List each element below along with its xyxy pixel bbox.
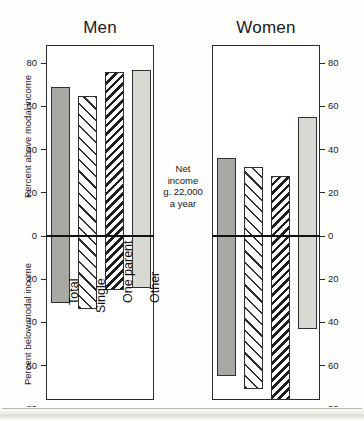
category-label-other: Other bbox=[148, 272, 162, 303]
y-tick-left-3 bbox=[41, 279, 46, 280]
bar-women-total bbox=[217, 158, 236, 376]
y-tick-right-2 bbox=[320, 322, 325, 323]
y-tick-left-2 bbox=[41, 322, 46, 323]
bar-women-single bbox=[244, 167, 263, 389]
y-tick-right-6 bbox=[320, 149, 325, 150]
y-tick-right-8 bbox=[320, 63, 325, 64]
zero-baseline-men bbox=[46, 235, 154, 237]
bar-women-one-parent bbox=[271, 176, 290, 401]
bar-men-total bbox=[51, 87, 70, 303]
center-annotation: Net income g. 22,000 a year bbox=[154, 163, 212, 209]
category-label-one-parent: One parent bbox=[121, 240, 135, 303]
figure-page: Men TotalSingleOne parentOther Women 806… bbox=[0, 0, 364, 421]
y-tick-left-8 bbox=[41, 63, 46, 64]
y-tick-left-5 bbox=[41, 192, 46, 193]
page-edge-shadow bbox=[0, 407, 364, 421]
panel-title-men: Men bbox=[46, 18, 154, 38]
panel-women: Women bbox=[212, 18, 320, 400]
y-tick-label-left-4: 0 bbox=[15, 230, 37, 241]
y-tick-left-6 bbox=[41, 149, 46, 150]
bar-women-other bbox=[298, 117, 317, 329]
page-edge-line bbox=[2, 408, 362, 409]
zero-baseline-women bbox=[212, 235, 320, 237]
y-tick-label-right-3: 20 bbox=[328, 273, 350, 284]
y-tick-right-3 bbox=[320, 279, 325, 280]
category-label-total: Total bbox=[67, 279, 81, 305]
y-tick-right-5 bbox=[320, 192, 325, 193]
y-tick-label-right-7: 60 bbox=[328, 100, 350, 111]
panel-title-women: Women bbox=[212, 18, 320, 38]
y-tick-label-right-8: 80 bbox=[328, 57, 350, 68]
plot-area-women bbox=[212, 45, 320, 400]
y-tick-label-right-1: 60 bbox=[328, 360, 350, 371]
y-tick-right-4 bbox=[320, 236, 325, 237]
axis-title-below: Percent below modal income bbox=[22, 263, 33, 385]
y-tick-label-left-8: 80 bbox=[15, 57, 37, 68]
category-label-single: Single bbox=[94, 278, 108, 313]
y-tick-left-1 bbox=[41, 365, 46, 366]
panel-men: Men TotalSingleOne parentOther bbox=[46, 18, 154, 400]
y-tick-right-7 bbox=[320, 106, 325, 107]
plot-area-men: TotalSingleOne parentOther bbox=[46, 45, 154, 400]
y-tick-label-right-2: 40 bbox=[328, 316, 350, 327]
y-tick-label-right-5: 20 bbox=[328, 187, 350, 198]
axis-title-above: Percent above modal income bbox=[22, 75, 33, 198]
y-tick-left-7 bbox=[41, 106, 46, 107]
y-tick-right-1 bbox=[320, 365, 325, 366]
y-tick-label-right-6: 40 bbox=[328, 144, 350, 155]
y-tick-label-right-4: 0 bbox=[328, 230, 350, 241]
